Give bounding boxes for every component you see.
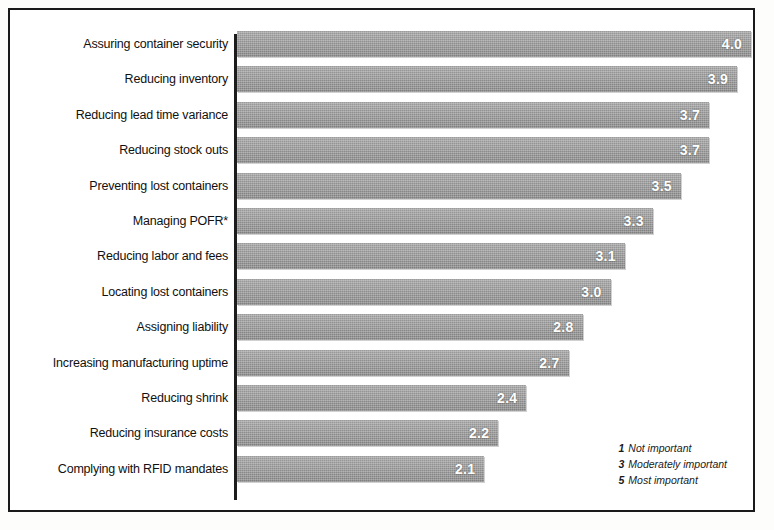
legend-entry: 3Moderately important: [619, 456, 727, 472]
bar-category-label: Managing POFR*: [10, 208, 228, 234]
bar-wrapper: 2.4: [237, 385, 526, 411]
bar[interactable]: 2.4: [237, 385, 526, 411]
bar-wrapper: 3.0: [237, 279, 611, 305]
bar-value-label: 3.9: [708, 66, 728, 92]
bar-wrapper: 2.7: [237, 350, 569, 376]
bar-wrapper: 3.1: [237, 243, 625, 269]
bar-wrapper: 3.7: [237, 137, 709, 163]
bar-category-label: Reducing shrink: [10, 385, 228, 411]
bar-value-label: 3.7: [680, 137, 700, 163]
bar[interactable]: 3.7: [237, 137, 709, 163]
legend-entry-key: 5: [619, 474, 625, 486]
bar-category-label: Complying with RFID mandates: [10, 456, 228, 482]
chart-page: Assuring container security4.0Reducing i…: [0, 0, 774, 530]
bar[interactable]: 2.1: [237, 456, 484, 482]
bar-wrapper: 2.1: [237, 456, 484, 482]
bar-category-label: Reducing lead time variance: [10, 102, 228, 128]
legend-entry: 5Most important: [619, 472, 727, 488]
bar-value-label: 4.0: [722, 31, 742, 57]
bar-category-label: Reducing labor and fees: [10, 243, 228, 269]
legend-entry: 1Not important: [619, 440, 727, 456]
bar-value-label: 3.3: [624, 208, 644, 234]
bar-row: Reducing inventory3.9: [10, 66, 753, 92]
bar[interactable]: 3.3: [237, 208, 653, 234]
legend-entry-label: Most important: [628, 474, 697, 486]
bar-value-label: 3.5: [652, 173, 672, 199]
bar-category-label: Increasing manufacturing uptime: [10, 350, 228, 376]
legend-entry-key: 3: [619, 458, 625, 470]
legend-entry-label: Moderately important: [628, 458, 727, 470]
bar-wrapper: 3.9: [237, 66, 737, 92]
bar-row: Locating lost containers3.0: [10, 279, 753, 305]
bar-row: Assigning liability2.8: [10, 314, 753, 340]
bar-value-label: 2.4: [497, 385, 517, 411]
bar-wrapper: 3.5: [237, 173, 681, 199]
bar[interactable]: 4.0: [237, 31, 751, 57]
value-axis-line: [234, 34, 237, 500]
bar-value-label: 2.8: [553, 314, 573, 340]
bar-category-label: Reducing insurance costs: [10, 420, 228, 446]
bar-value-label: 3.0: [581, 279, 601, 305]
bar-category-label: Reducing stock outs: [10, 137, 228, 163]
bar-value-label: 3.7: [680, 102, 700, 128]
bar[interactable]: 3.7: [237, 102, 709, 128]
bar-row: Assuring container security4.0: [10, 31, 753, 57]
bar-row: Reducing stock outs3.7: [10, 137, 753, 163]
bar-category-label: Assigning liability: [10, 314, 228, 340]
chart-frame: Assuring container security4.0Reducing i…: [8, 8, 755, 512]
bar[interactable]: 3.9: [237, 66, 737, 92]
bar-value-label: 3.1: [595, 243, 615, 269]
bar-row: Reducing lead time variance3.7: [10, 102, 753, 128]
bar-wrapper: 3.7: [237, 102, 709, 128]
legend-entry-label: Not important: [628, 442, 691, 454]
bar-category-label: Assuring container security: [10, 31, 228, 57]
bar-value-label: 2.1: [455, 456, 475, 482]
bar[interactable]: 2.8: [237, 314, 583, 340]
bar-row: Managing POFR*3.3: [10, 208, 753, 234]
plot-area: Assuring container security4.0Reducing i…: [10, 10, 753, 510]
bar-value-label: 2.2: [469, 420, 489, 446]
bar-category-label: Locating lost containers: [10, 279, 228, 305]
bar[interactable]: 3.5: [237, 173, 681, 199]
bar-category-label: Reducing inventory: [10, 66, 228, 92]
bar-row: Reducing labor and fees3.1: [10, 243, 753, 269]
bar-wrapper: 3.3: [237, 208, 653, 234]
bar-row: Increasing manufacturing uptime2.7: [10, 350, 753, 376]
bar-wrapper: 2.8: [237, 314, 583, 340]
bar[interactable]: 2.7: [237, 350, 569, 376]
bar-wrapper: 2.2: [237, 420, 498, 446]
bar-value-label: 2.7: [539, 350, 559, 376]
bar-wrapper: 4.0: [237, 31, 751, 57]
bar-category-label: Preventing lost containers: [10, 173, 228, 199]
legend-entry-key: 1: [619, 442, 625, 454]
chart-legend: 1Not important3Moderately important5Most…: [619, 440, 727, 488]
bar[interactable]: 2.2: [237, 420, 498, 446]
bar-row: Preventing lost containers3.5: [10, 173, 753, 199]
bar-row: Reducing shrink2.4: [10, 385, 753, 411]
bar[interactable]: 3.0: [237, 279, 611, 305]
bar[interactable]: 3.1: [237, 243, 625, 269]
